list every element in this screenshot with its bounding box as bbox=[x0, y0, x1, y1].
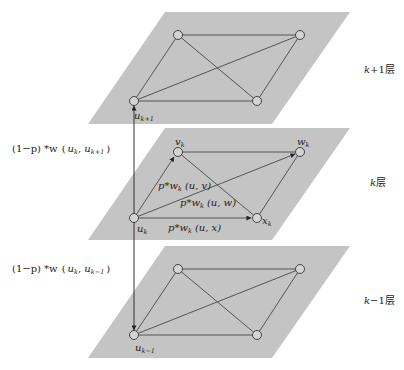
node bbox=[174, 31, 183, 40]
layer-upper bbox=[88, 12, 350, 124]
plane-lower bbox=[88, 246, 350, 358]
interlayer-label-down: (1−p) *w(uk, uk−1) bbox=[12, 263, 110, 276]
multilayer-graph-diagram: uk+1 vk wk uk xk uk−1 p*wk(u, v) p*wk(u,… bbox=[0, 0, 404, 370]
node bbox=[253, 97, 262, 106]
node bbox=[174, 265, 183, 274]
layer-label-middle: k层 bbox=[370, 177, 386, 188]
layer-label-lower: k−1层 bbox=[364, 295, 395, 306]
interlayer-label-up: (1−p) *w(uk, uk+1) bbox=[12, 143, 110, 156]
node bbox=[296, 265, 305, 274]
node bbox=[253, 331, 262, 340]
node-u-k-plus-1 bbox=[130, 97, 139, 106]
node-w-k bbox=[296, 148, 305, 157]
layer-label-upper: k+1层 bbox=[364, 64, 395, 75]
node-x-k bbox=[253, 214, 262, 223]
plane-upper bbox=[88, 12, 350, 124]
node-u-k-minus-1 bbox=[130, 331, 139, 340]
node-u-k bbox=[130, 214, 139, 223]
layer-lower bbox=[88, 246, 350, 358]
node bbox=[296, 31, 305, 40]
